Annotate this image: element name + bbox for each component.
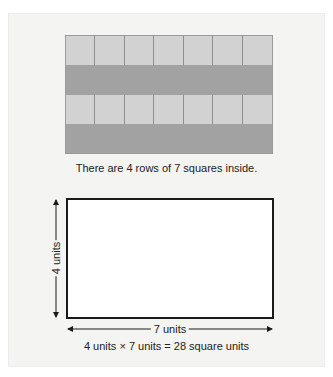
- dimension-arrows: [0, 0, 333, 377]
- width-label: 7 units: [151, 323, 189, 335]
- area-equation: 4 units × 7 units = 28 square units: [0, 340, 333, 352]
- height-label: 4 units: [50, 240, 62, 276]
